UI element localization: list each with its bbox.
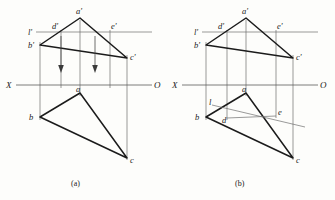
label-b-prime: b' [194, 40, 200, 50]
label-e-prime: e' [111, 21, 117, 31]
label-b-prime: b' [28, 40, 34, 50]
label-a: a [76, 84, 80, 94]
label-a: a [242, 84, 246, 94]
figure-a: a' b' c' d' e' l' a b c X O (a) [5, 6, 161, 188]
projection-drawing-canvas: a' b' c' d' e' l' a b c X O (a) [0, 0, 335, 200]
label-c: c [130, 155, 134, 165]
label-d-prime: d' [218, 21, 224, 31]
label-e-prime: e' [277, 21, 283, 31]
label-l-prime: l' [194, 27, 198, 37]
label-c-prime: c' [296, 52, 302, 62]
top-view-triangle [40, 93, 127, 158]
label-l-prime: l' [28, 27, 32, 37]
arrow-head-right [92, 65, 98, 73]
label-a-prime: a' [76, 6, 82, 16]
label-c: c [296, 155, 300, 165]
figure-b: a' b' c' d' e' l' a b c d e l X O (b) [171, 6, 327, 188]
label-b: b [29, 112, 33, 122]
label-c-prime: c' [130, 52, 136, 62]
label-axis-o: O [320, 80, 327, 90]
arrow-head-left [58, 65, 64, 73]
label-axis-o: O [154, 80, 161, 90]
label-l: l [209, 97, 212, 107]
label-d: d [222, 115, 227, 125]
label-e: e [278, 107, 282, 117]
label-axis-x: X [5, 80, 12, 90]
figure-a-arrows [58, 36, 98, 73]
label-axis-x: X [171, 80, 178, 90]
label-a-prime: a' [242, 6, 248, 16]
label-b: b [195, 112, 199, 122]
figure-b-caption: (b) [235, 179, 245, 188]
label-d-prime: d' [52, 21, 58, 31]
drawing-sheet: a' b' c' d' e' l' a b c X O (a) [0, 0, 335, 200]
chord-de [227, 116, 276, 118]
figure-a-caption: (a) [71, 179, 80, 188]
top-view-triangle [206, 93, 293, 158]
